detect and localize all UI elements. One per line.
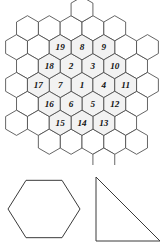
hex-cell-label-19: 19 <box>56 42 66 52</box>
hex-cell-label-1: 1 <box>80 80 85 90</box>
hex-cell-label-15: 15 <box>56 118 66 128</box>
hex-cell-label-14: 14 <box>77 118 87 128</box>
hexagon-outline[interactable] <box>8 180 80 237</box>
hex-cell-label-7: 7 <box>58 80 63 90</box>
hex-cell-label-11: 11 <box>121 80 130 90</box>
right-triangle-outline[interactable] <box>96 177 160 241</box>
shapes-panel <box>0 165 164 247</box>
hex-cell-label-2: 2 <box>68 61 74 71</box>
hex-cell-label-17: 17 <box>34 80 44 90</box>
hexagonal-tiling-grid: 12345678910111213141516171819 <box>0 0 164 165</box>
hex-cell-label-16: 16 <box>45 99 55 109</box>
hex-cell-label-3: 3 <box>90 61 96 71</box>
hex-cell-label-9: 9 <box>102 42 107 52</box>
hex-cell-label-8: 8 <box>80 42 85 52</box>
hex-cell-label-12: 12 <box>110 99 120 109</box>
hex-cell-label-6: 6 <box>69 99 74 109</box>
hex-grid-panel: 12345678910111213141516171819 <box>0 0 164 165</box>
figure-root: 12345678910111213141516171819 <box>0 0 164 247</box>
hex-cell-label-10: 10 <box>110 61 120 71</box>
hex-cell-label-5: 5 <box>91 99 96 109</box>
shapes-outline-group <box>0 165 164 247</box>
hex-cell-label-18: 18 <box>45 61 55 71</box>
hex-cell-label-4: 4 <box>101 80 107 90</box>
hex-cell-label-13: 13 <box>99 118 109 128</box>
